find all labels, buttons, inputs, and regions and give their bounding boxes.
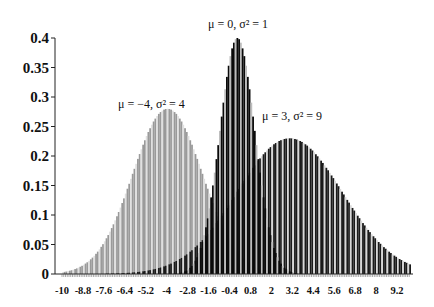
bar bbox=[156, 269, 158, 274]
bar bbox=[406, 263, 408, 274]
bar bbox=[193, 264, 195, 274]
bar bbox=[156, 116, 158, 274]
bar bbox=[186, 270, 188, 274]
bar bbox=[264, 208, 266, 274]
y-tick-label: 0.15 bbox=[23, 178, 49, 194]
bar bbox=[216, 159, 218, 274]
annotation-mu-minus4: μ = −4, σ² = 4 bbox=[118, 97, 185, 111]
bar bbox=[189, 268, 191, 274]
bar bbox=[238, 39, 240, 274]
bar bbox=[127, 189, 129, 274]
bar bbox=[294, 139, 296, 274]
bar bbox=[163, 266, 165, 274]
bar bbox=[388, 252, 390, 274]
x-tick-label: 3.2 bbox=[286, 285, 299, 296]
x-tick-label: -8.8 bbox=[75, 285, 92, 296]
x-tick-label: 6.8 bbox=[349, 285, 362, 296]
x-tick-label: -7.6 bbox=[96, 285, 113, 296]
bar bbox=[86, 262, 88, 274]
bar bbox=[249, 89, 251, 274]
bar bbox=[172, 111, 174, 274]
bar bbox=[186, 132, 188, 274]
y-tick-label: 0.1 bbox=[30, 207, 49, 223]
bar bbox=[383, 247, 385, 274]
bar bbox=[263, 197, 265, 274]
bar bbox=[257, 159, 259, 274]
bar bbox=[142, 145, 144, 274]
bar bbox=[266, 218, 268, 274]
bar bbox=[278, 261, 280, 274]
bar bbox=[346, 200, 348, 274]
bar bbox=[254, 131, 256, 274]
bar bbox=[289, 138, 291, 274]
bar bbox=[273, 248, 275, 274]
bar bbox=[177, 116, 179, 274]
bar bbox=[392, 254, 394, 274]
normal-distribution-chart: 00.050.10.150.20.250.30.350.4 -10-8.8-7.… bbox=[0, 0, 434, 307]
bar bbox=[219, 131, 221, 274]
bar bbox=[113, 224, 115, 274]
bar bbox=[196, 257, 198, 274]
bar bbox=[149, 128, 151, 274]
y-tick-label: 0.4 bbox=[30, 30, 49, 46]
y-tick-label: 0 bbox=[42, 266, 50, 282]
annotation-mu-3: μ = 3, σ² = 9 bbox=[262, 109, 322, 123]
bar bbox=[167, 109, 169, 274]
bar bbox=[154, 119, 156, 274]
bar bbox=[312, 150, 314, 274]
bar bbox=[172, 263, 174, 274]
bar bbox=[146, 136, 148, 274]
bar bbox=[151, 270, 153, 274]
bar bbox=[261, 185, 263, 274]
x-tick-label: -5.2 bbox=[137, 285, 154, 296]
bar bbox=[285, 269, 287, 274]
bar bbox=[387, 250, 389, 274]
x-axis-ticks: -10-8.8-7.6-6.4-5.2-4-2.8-1.6-0.40.823.2… bbox=[55, 274, 409, 296]
bar bbox=[318, 158, 320, 274]
y-tick-label: 0.35 bbox=[23, 60, 49, 76]
bar bbox=[168, 264, 170, 274]
bar bbox=[284, 139, 286, 274]
bar bbox=[247, 77, 249, 274]
bar bbox=[78, 268, 80, 274]
bar bbox=[202, 242, 204, 274]
bar bbox=[217, 145, 219, 274]
x-tick-label: -0.4 bbox=[221, 285, 238, 296]
bar bbox=[184, 256, 186, 274]
bar bbox=[161, 267, 163, 274]
bar bbox=[243, 56, 245, 274]
bar bbox=[359, 218, 361, 274]
bar bbox=[203, 235, 205, 274]
bar bbox=[336, 183, 338, 274]
bar bbox=[175, 261, 177, 274]
bar bbox=[282, 140, 284, 275]
bar bbox=[158, 268, 160, 274]
bar bbox=[369, 232, 371, 274]
bar bbox=[308, 147, 310, 274]
bar bbox=[376, 240, 378, 274]
bar bbox=[235, 39, 237, 274]
bar bbox=[92, 258, 94, 274]
bar bbox=[402, 261, 404, 274]
bar bbox=[198, 253, 200, 274]
bar bbox=[174, 112, 176, 274]
x-tick-label: -1.6 bbox=[200, 285, 217, 296]
bar bbox=[343, 194, 345, 274]
bar bbox=[280, 264, 282, 274]
bar bbox=[161, 111, 163, 274]
y-tick-label: 0.05 bbox=[23, 237, 49, 253]
bar bbox=[97, 252, 99, 274]
bar bbox=[397, 258, 399, 274]
bar bbox=[147, 270, 149, 274]
bar bbox=[139, 154, 141, 274]
bar bbox=[291, 138, 293, 274]
bar bbox=[79, 267, 81, 274]
bar bbox=[378, 242, 380, 274]
x-tick-label: 5.6 bbox=[328, 285, 341, 296]
bar bbox=[284, 268, 286, 274]
bar bbox=[242, 48, 244, 274]
bar bbox=[245, 66, 247, 274]
bar bbox=[324, 165, 326, 274]
bar bbox=[147, 132, 149, 274]
bar bbox=[99, 249, 101, 274]
